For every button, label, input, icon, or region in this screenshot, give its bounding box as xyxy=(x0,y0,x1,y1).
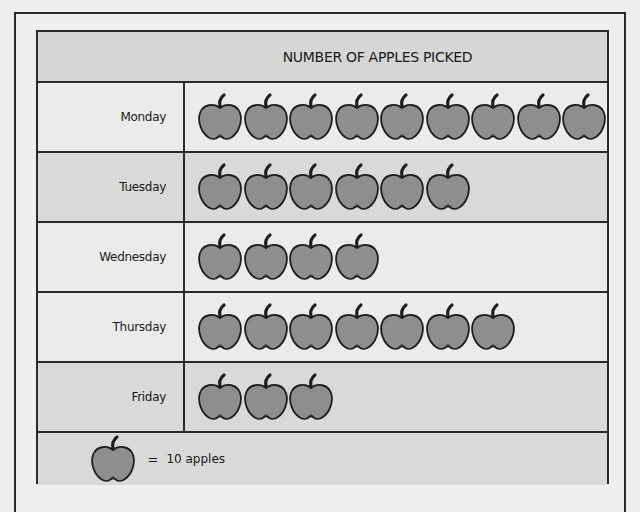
apple-icon xyxy=(90,434,136,484)
row-label: Monday xyxy=(38,83,185,151)
apple-icon xyxy=(425,92,471,142)
apple-icon xyxy=(425,162,471,212)
apple-icon xyxy=(243,302,289,352)
row-apples xyxy=(185,293,607,361)
apple-icon xyxy=(425,302,471,352)
apple-icon xyxy=(334,162,380,212)
apple-icon xyxy=(334,302,380,352)
apple-icon xyxy=(197,92,243,142)
apple-icon xyxy=(379,92,425,142)
row-apples xyxy=(185,363,607,431)
apple-icon xyxy=(243,372,289,422)
apple-icon xyxy=(288,302,334,352)
chart-row-wednesday: Wednesday xyxy=(38,223,607,293)
chart-row-thursday: Thursday xyxy=(38,293,607,363)
apple-icon xyxy=(288,232,334,282)
apple-icon xyxy=(470,92,516,142)
apple-icon xyxy=(243,162,289,212)
apple-icon xyxy=(90,434,136,484)
apple-icon xyxy=(288,92,334,142)
row-apples xyxy=(185,223,607,291)
row-label: Friday xyxy=(38,363,185,431)
apple-icon xyxy=(197,162,243,212)
key-equals: = xyxy=(148,452,159,467)
chart-rows: Monday xyxy=(38,83,607,433)
key-text: 10 apples xyxy=(166,452,225,466)
apple-icon xyxy=(288,162,334,212)
row-label: Tuesday xyxy=(38,153,185,221)
apple-icon xyxy=(561,92,607,142)
chart-row-monday: Monday xyxy=(38,83,607,153)
apple-icon xyxy=(197,232,243,282)
apple-icon xyxy=(288,372,334,422)
apple-icon xyxy=(243,92,289,142)
apple-icon xyxy=(197,372,243,422)
row-label: Wednesday xyxy=(38,223,185,291)
apple-icon xyxy=(516,92,562,142)
apple-icon xyxy=(470,302,516,352)
row-apples xyxy=(185,153,607,221)
chart-key: = 10 apples xyxy=(38,433,607,485)
pictograph-chart: NUMBER OF APPLES PICKED Monday xyxy=(36,30,609,484)
apple-icon xyxy=(243,232,289,282)
chart-row-friday: Friday xyxy=(38,363,607,433)
apple-icon xyxy=(197,302,243,352)
chart-row-tuesday: Tuesday xyxy=(38,153,607,223)
row-label: Thursday xyxy=(38,293,185,361)
apple-icon xyxy=(379,302,425,352)
apple-icon xyxy=(334,92,380,142)
chart-title: NUMBER OF APPLES PICKED xyxy=(38,32,607,83)
apple-icon xyxy=(334,232,380,282)
apple-icon xyxy=(379,162,425,212)
row-apples xyxy=(185,83,607,151)
